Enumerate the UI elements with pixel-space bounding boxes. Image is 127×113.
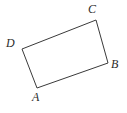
vertex-label-b: B xyxy=(111,58,118,70)
figure-background xyxy=(0,0,127,113)
vertex-label-d: D xyxy=(6,37,15,49)
quadrilateral-drawing xyxy=(0,0,127,113)
geometry-figure: A B C D xyxy=(0,0,127,113)
vertex-label-c: C xyxy=(88,3,96,15)
vertex-label-a: A xyxy=(32,91,39,103)
